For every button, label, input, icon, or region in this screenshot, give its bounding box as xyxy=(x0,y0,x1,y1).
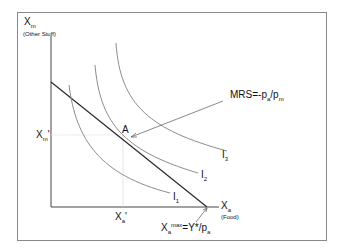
x-axis-note: (Food) xyxy=(221,214,239,220)
y-axis-note: (Other Stuff) xyxy=(23,31,56,37)
diagram-canvas xyxy=(0,0,347,250)
point-a-label: A xyxy=(122,125,129,135)
budget-line xyxy=(51,82,207,207)
curve-label-i1: I1 xyxy=(173,192,179,204)
mrs-pointer xyxy=(131,101,223,137)
indifference-curve-2 xyxy=(95,65,198,173)
y-axis-label: Xm xyxy=(24,17,36,29)
xmax-label: Xamax=Y*/pa xyxy=(161,222,210,235)
x-axis-label: Xa xyxy=(221,201,231,213)
x-tick-label: Xa' xyxy=(115,212,127,224)
curve-label-i3: I3 xyxy=(222,150,228,162)
mrs-label: MRS=-pa/pm xyxy=(230,90,284,102)
y-tick-label: Xm' xyxy=(36,130,50,142)
indifference-curve-1 xyxy=(69,85,170,193)
xmax-pointer xyxy=(196,208,207,222)
indifference-curve-3 xyxy=(116,43,227,151)
curve-label-i2: I2 xyxy=(201,170,207,182)
